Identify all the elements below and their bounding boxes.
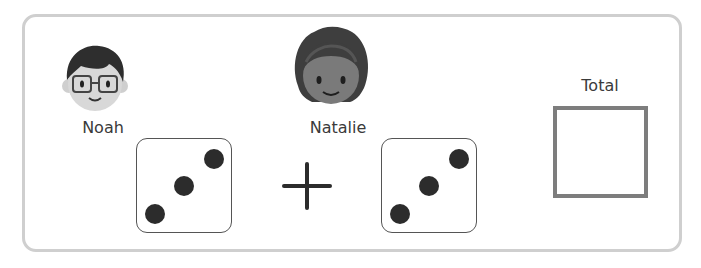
noah-avatar-icon (55, 40, 135, 118)
plus-icon (305, 162, 309, 210)
total-answer-box[interactable] (553, 106, 648, 198)
die-pip (419, 176, 439, 196)
player-name-noah: Noah (43, 118, 163, 137)
player-name-natalie: Natalie (278, 118, 398, 137)
die-noah (136, 138, 232, 233)
die-pip (204, 149, 224, 169)
die-pip (449, 149, 469, 169)
die-natalie (381, 138, 477, 233)
die-pip (174, 176, 194, 196)
die-pip (390, 204, 410, 224)
total-label: Total (540, 76, 660, 95)
natalie-avatar-icon (290, 24, 372, 116)
die-pip (145, 204, 165, 224)
